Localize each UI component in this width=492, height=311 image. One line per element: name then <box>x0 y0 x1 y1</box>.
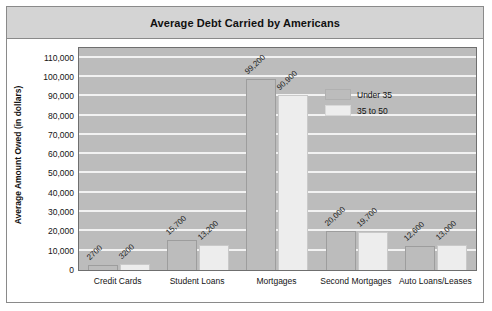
bar <box>246 79 276 270</box>
legend-label: 35 to 50 <box>357 106 388 116</box>
bar-value-label: 99,200 <box>243 52 267 75</box>
x-axis-tick-label: Auto Loans/Leases <box>399 276 472 286</box>
y-axis-tick-label: 20,000 <box>48 226 74 236</box>
y-axis-tick-label: 80,000 <box>48 111 74 121</box>
bar-value-label: 12,600 <box>402 220 426 243</box>
bar-value-label: 20,000 <box>323 205 347 228</box>
y-axis-tick-label: 70,000 <box>48 130 74 140</box>
bar <box>358 232 388 270</box>
y-axis-tick-label: 10,000 <box>48 246 74 256</box>
y-axis-tick-label: 40,000 <box>48 188 74 198</box>
bar-value-label: 3200 <box>117 242 136 261</box>
bar-value-label: 15,700 <box>164 214 188 237</box>
legend-item[interactable]: Under 35 <box>325 87 419 102</box>
legend-label: Under 35 <box>357 90 392 100</box>
x-axis-tick-label: Credit Cards <box>94 276 142 286</box>
x-axis-tick-label: Mortgages <box>256 276 296 286</box>
bar-value-label: 2700 <box>85 243 104 262</box>
bar-group: 27003200 <box>79 48 158 270</box>
legend-swatch <box>325 105 351 116</box>
bars-layer: 2700320015,70013,20099,20090,90020,00019… <box>79 48 476 270</box>
bar-group: 20,00019,700 <box>317 48 396 270</box>
bar <box>326 231 356 270</box>
page-title: Average Debt Carried by Americans <box>150 17 340 29</box>
y-axis-tick-labels: 010,00020,00030,00040,00050,00060,00070,… <box>25 47 77 271</box>
bar-group: 15,70013,200 <box>158 48 237 270</box>
bar <box>278 95 308 270</box>
y-axis-tick-label: 100,000 <box>43 72 74 82</box>
bar-value-label: 13,200 <box>196 218 220 241</box>
bar-value-label: 13,000 <box>434 219 458 242</box>
x-axis-tick-label: Student Loans <box>170 276 225 286</box>
bar <box>120 264 150 270</box>
y-axis-tick-label: 90,000 <box>48 91 74 101</box>
y-axis-title: Average Amount Owed (in dollars) <box>13 86 23 225</box>
y-axis-tick-label: 30,000 <box>48 207 74 217</box>
y-axis-tick-label: 50,000 <box>48 168 74 178</box>
bar-group: 99,20090,900 <box>238 48 317 270</box>
bar-group: 12,60013,000 <box>397 48 476 270</box>
y-axis-tick-label: 0 <box>69 265 74 275</box>
x-axis-tick-labels: Credit CardsStudent LoansMortgagesSecond… <box>78 273 477 293</box>
bar-value-label: 90,900 <box>275 68 299 91</box>
chart-body: Average Amount Owed (in dollars) 010,000… <box>7 39 483 302</box>
bar <box>437 245 467 270</box>
bar-value-label: 19,700 <box>355 206 379 229</box>
bar <box>167 240 197 270</box>
legend-item[interactable]: 35 to 50 <box>325 103 419 118</box>
chart-frame: Average Debt Carried by Americans Averag… <box>6 6 484 303</box>
bar <box>88 265 118 270</box>
bar <box>405 246 435 270</box>
plot-area: 2700320015,70013,20099,20090,90020,00019… <box>78 47 477 271</box>
bar <box>199 245 229 270</box>
chart-title-band: Average Debt Carried by Americans <box>7 7 483 39</box>
legend: Under 3535 to 50 <box>325 87 419 119</box>
y-axis-tick-label: 110,000 <box>44 53 74 63</box>
legend-swatch <box>325 89 351 100</box>
x-axis-tick-label: Second Mortgages <box>320 276 391 286</box>
y-axis-tick-label: 60,000 <box>48 149 74 159</box>
